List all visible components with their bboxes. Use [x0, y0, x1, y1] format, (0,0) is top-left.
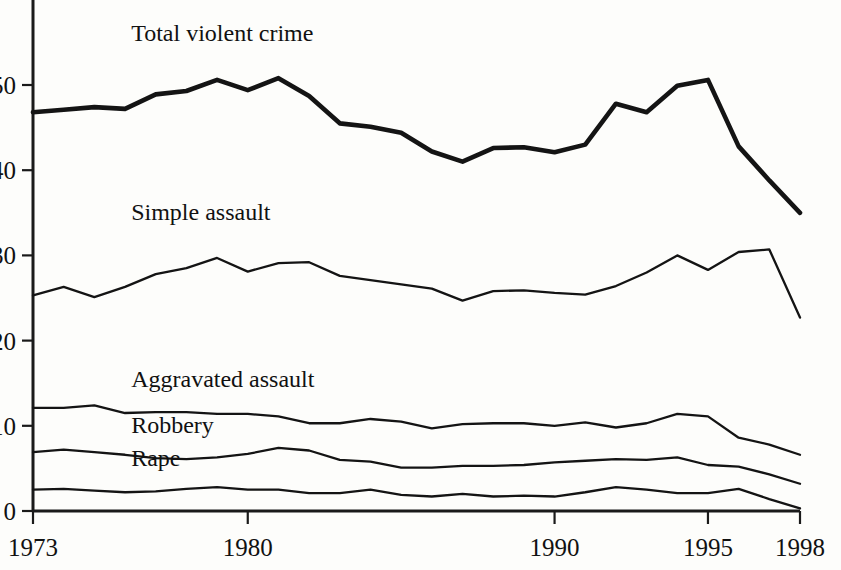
- y-tick-label-10: 10: [0, 413, 16, 440]
- series-labels: Total violent crimeSimple assaultAggrava…: [131, 20, 315, 471]
- series-line-rape: [33, 487, 800, 508]
- y-tick-label-30: 30: [0, 242, 16, 269]
- x-tick-label-1973: 1973: [8, 534, 58, 561]
- chart-container: 0102030405019731980199019951998 Total vi…: [0, 0, 841, 570]
- series-label-simple-assault: Simple assault: [131, 199, 271, 225]
- y-tick-label-20: 20: [0, 328, 16, 355]
- x-tick-label-1998: 1998: [775, 534, 825, 561]
- series-label-aggravated-assault: Aggravated assault: [131, 366, 315, 392]
- x-tick-label-1995: 1995: [683, 534, 733, 561]
- series-label-total-violent-crime: Total violent crime: [131, 20, 313, 46]
- y-tick-label-40: 40: [0, 157, 16, 184]
- series-line-simple-assault: [33, 249, 800, 317]
- x-tick-label-1980: 1980: [223, 534, 273, 561]
- line-chart: 0102030405019731980199019951998 Total vi…: [0, 0, 841, 570]
- tick-labels: 0102030405019731980199019951998: [0, 72, 825, 561]
- series-line-total-violent-crime: [33, 78, 800, 213]
- series-label-robbery: Robbery: [131, 412, 214, 438]
- y-tick-label-0: 0: [4, 498, 17, 525]
- y-tick-label-50: 50: [0, 72, 16, 99]
- x-tick-label-1990: 1990: [530, 534, 580, 561]
- series-label-rape: Rape: [131, 445, 180, 471]
